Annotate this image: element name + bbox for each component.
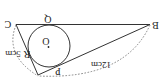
- center-label-o: O: [42, 36, 49, 47]
- tangent-label-r: R: [23, 49, 30, 60]
- measure-label-12cm: 12cm: [91, 60, 111, 70]
- tangent-label-p: P: [55, 66, 61, 77]
- vertex-label-b: B: [152, 20, 159, 31]
- vertex-label-c: C: [4, 19, 11, 30]
- tangent-label-q: Q: [44, 14, 52, 25]
- incircle-triangle-diagram: C B Q O R P 5cm 12cm: [0, 0, 163, 79]
- measure-label-5cm: 5cm: [5, 49, 21, 59]
